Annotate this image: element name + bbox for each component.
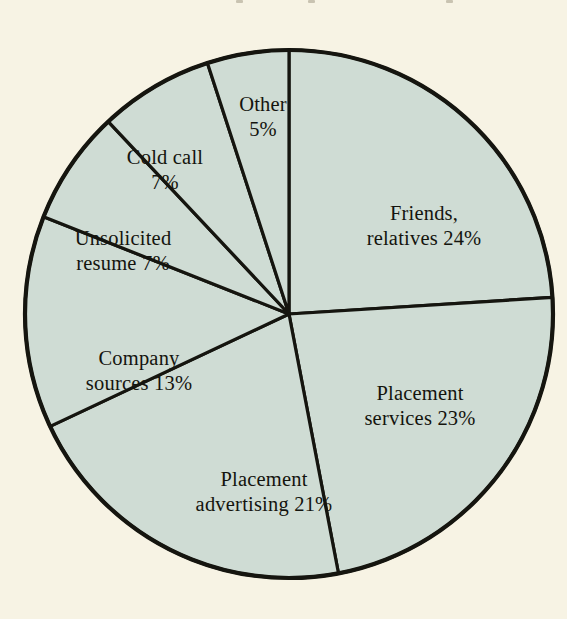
pie-slice	[289, 50, 552, 314]
pie-slices	[25, 50, 553, 578]
pie-svg	[0, 0, 567, 619]
pie-chart-figure: Friends,relatives 24%Placementservices 2…	[0, 0, 567, 619]
